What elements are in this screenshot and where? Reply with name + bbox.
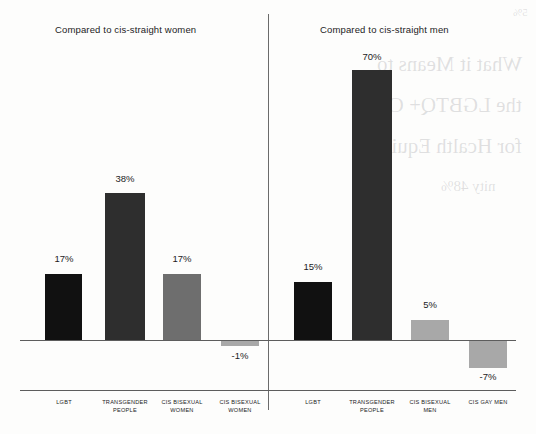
bleed-through-text-1: 5% <box>513 6 528 18</box>
bar-value-right-3: -7% <box>457 371 519 382</box>
bar-value-left-3: -1% <box>209 350 271 361</box>
zero-baseline <box>20 340 516 341</box>
bar-left-0[interactable] <box>45 274 82 340</box>
panel-title-left: Compared to cis-straight women <box>55 24 196 35</box>
bar-value-left-0: 17% <box>33 253 95 264</box>
bar-right-2[interactable] <box>411 320 449 340</box>
category-label-left-1: TRANSGENDER PEOPLE <box>94 398 156 415</box>
category-label-right-0: LGBT <box>282 398 344 406</box>
category-label-left-3: CIS BISEXUAL WOMEN <box>209 398 271 415</box>
category-label-right-3: CIS GAY MEN <box>457 398 519 406</box>
chart-page: 5% What it Means to the LGBTQ+ Com- for … <box>0 0 536 434</box>
bar-left-1[interactable] <box>105 193 145 340</box>
bar-left-3[interactable] <box>221 341 259 346</box>
bar-right-0[interactable] <box>294 282 332 340</box>
bar-value-left-2: 17% <box>151 253 213 264</box>
bar-right-1[interactable] <box>352 70 392 340</box>
bar-value-right-0: 15% <box>282 261 344 272</box>
bleed-through-text-5: nity 48% <box>441 178 496 195</box>
bar-value-right-1: 70% <box>341 51 403 62</box>
category-label-left-2: CIS BISEXUAL WOMEN <box>151 398 213 415</box>
category-label-right-1: TRANSGENDER PEOPLE <box>341 398 403 415</box>
panel-title-right: Compared to cis-straight men <box>320 24 449 35</box>
category-axis-line <box>20 390 516 391</box>
category-label-right-2: CIS BISEXUAL MEN <box>399 398 461 415</box>
bar-value-right-2: 5% <box>399 299 461 310</box>
category-label-left-0: LGBT <box>33 398 95 406</box>
bar-right-3[interactable] <box>469 341 507 368</box>
bar-value-left-1: 38% <box>94 173 156 184</box>
bar-left-2[interactable] <box>163 274 201 340</box>
bleed-through-text-4: for Hcalth Equity <box>375 134 522 159</box>
